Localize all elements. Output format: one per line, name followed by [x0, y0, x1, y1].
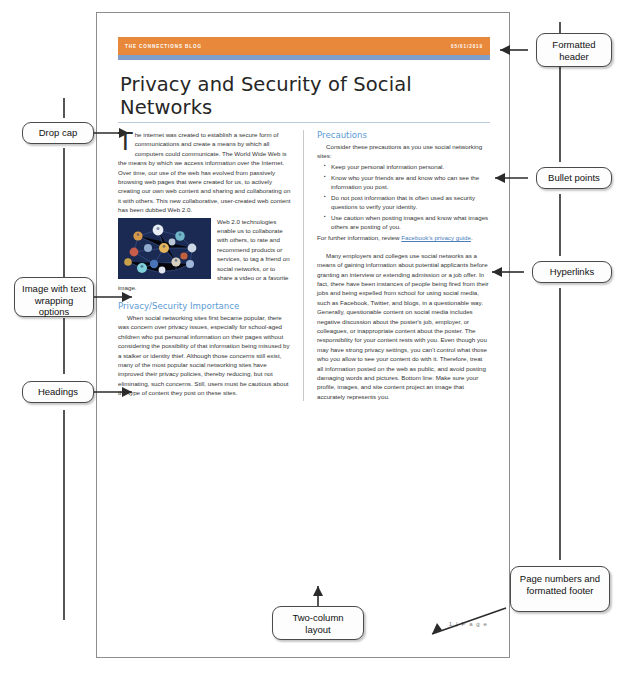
callout-headings: Headings	[22, 381, 94, 403]
heading-precautions: Precautions	[317, 130, 490, 140]
right-column: Precautions Consider these precautions a…	[304, 130, 490, 401]
further-info-sentence: For further information, review Facebook…	[317, 233, 490, 242]
document-page: THE CONNECTIONS BLOG 05/01/2019 Privacy …	[96, 12, 510, 658]
wrapped-image-block: Web 2.0 technologies enable us to collab…	[118, 217, 292, 292]
heading-privacy-security-importance: Privacy/Security Importance	[118, 301, 292, 311]
social-network-image	[118, 218, 211, 279]
document-header-bar: THE CONNECTIONS BLOG 05/01/2019	[118, 37, 490, 55]
callout-drop-cap: Drop cap	[22, 122, 94, 144]
callout-page-footer: Page numbers and formatted footer	[510, 566, 610, 612]
precautions-lead-in: Consider these precautions as you use so…	[317, 142, 490, 161]
intro-paragraph: he internet was created to establish a s…	[118, 130, 292, 215]
list-item: Keep your personal information personal.	[326, 162, 490, 171]
left-column: T he internet was created to establish a…	[118, 130, 304, 401]
callout-bullet-points: Bullet points	[536, 167, 612, 189]
list-item: Do not post information that is often us…	[326, 193, 490, 212]
title-underline-rule	[118, 122, 490, 123]
callout-two-column-layout: Two-column layout	[272, 606, 364, 640]
closing-paragraph: Many employers and colleges use social n…	[317, 251, 490, 402]
document-content-area: THE CONNECTIONS BLOG 05/01/2019 Privacy …	[118, 37, 490, 637]
callout-hyperlinks: Hyperlinks	[532, 261, 612, 283]
facebook-privacy-guide-link[interactable]: Facebook's privacy guide	[401, 234, 471, 241]
list-item: Know who your friends are and know who c…	[326, 173, 490, 192]
page-title: Privacy and Security of Social Networks	[120, 73, 490, 119]
link-prefix-text: For further information, review	[317, 234, 401, 241]
precautions-bullet-list: Keep your personal information personal.…	[317, 162, 490, 232]
drop-cap-letter: T	[118, 131, 135, 152]
page-number-footer: 1 | P a g e	[449, 621, 488, 627]
callout-formatted-header: Formatted header	[536, 33, 612, 67]
list-item: Use caution when posting images and know…	[326, 213, 490, 232]
link-suffix-text: .	[471, 234, 473, 241]
header-date: 05/01/2019	[451, 44, 483, 49]
callout-image-wrapping: Image with text wrapping options	[14, 277, 94, 317]
privacy-importance-paragraph: When social networking sites first becam…	[118, 313, 292, 398]
two-column-body: T he internet was created to establish a…	[118, 130, 490, 401]
header-blog-name: THE CONNECTIONS BLOG	[125, 44, 202, 49]
header-accent-rule	[118, 55, 490, 60]
intro-paragraph-block: T he internet was created to establish a…	[118, 130, 292, 215]
